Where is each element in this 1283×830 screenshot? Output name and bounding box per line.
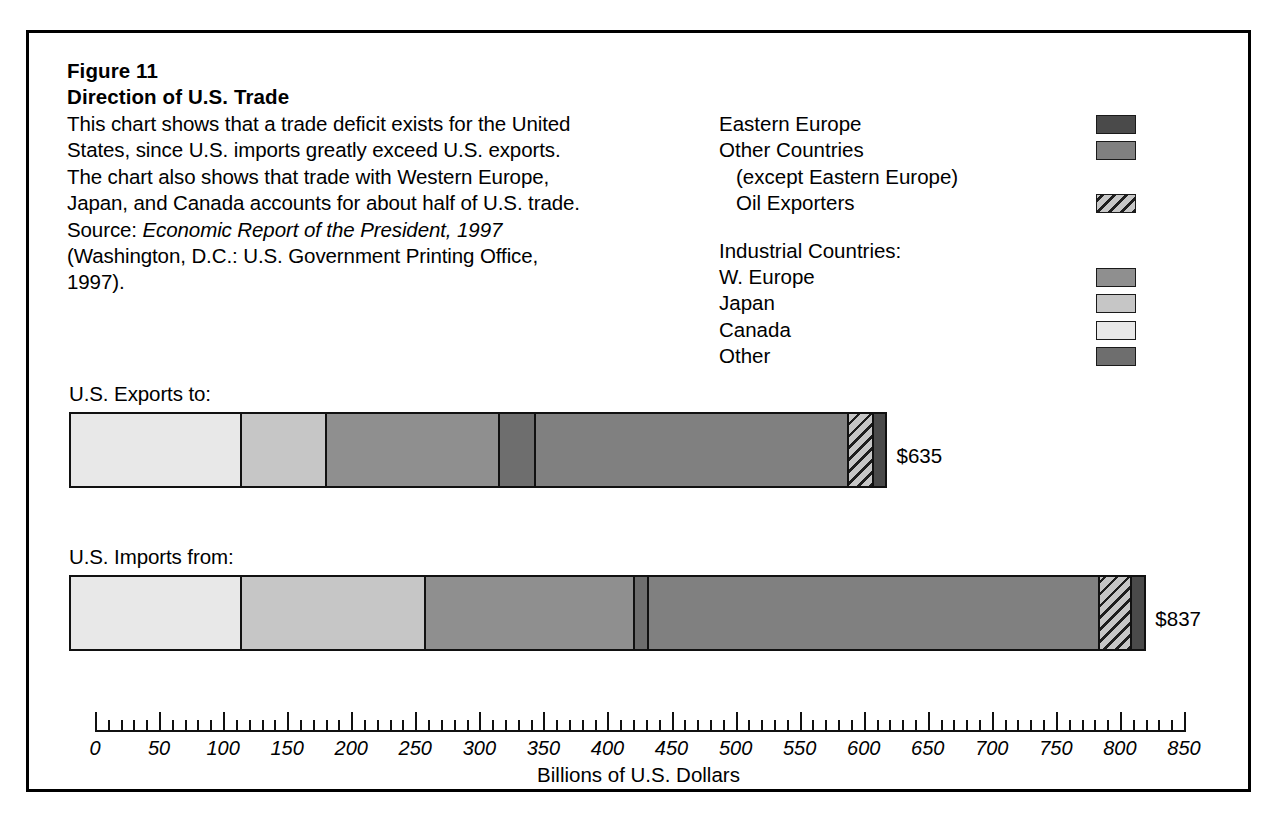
axis-tick-label: 450 bbox=[655, 737, 688, 760]
axis-tick-minor bbox=[1094, 720, 1096, 732]
axis-tick-minor bbox=[1069, 720, 1071, 732]
bar-label-exports: U.S. Exports to: bbox=[69, 383, 211, 405]
axis-tick-minor bbox=[748, 720, 750, 732]
axis-tick-label: 750 bbox=[1039, 737, 1072, 760]
axis-tick-label: 350 bbox=[527, 737, 560, 760]
axis-tick-minor bbox=[185, 720, 187, 732]
axis-tick-minor bbox=[338, 720, 340, 732]
axis-tick-minor bbox=[262, 720, 264, 732]
axis-tick-minor bbox=[377, 720, 379, 732]
bar-segment-japan bbox=[242, 414, 327, 486]
bar-segment-other bbox=[500, 414, 536, 486]
axis-tick-minor bbox=[659, 720, 661, 732]
axis-tick-major bbox=[543, 712, 545, 732]
axis-tick-minor bbox=[941, 720, 943, 732]
axis-tick-minor bbox=[684, 720, 686, 732]
axis-tick-major bbox=[864, 712, 866, 732]
axis-tick-label: 0 bbox=[89, 737, 100, 760]
axis-tick-minor bbox=[966, 720, 968, 732]
axis-tick-minor bbox=[326, 720, 328, 732]
axis-tick-minor bbox=[1043, 720, 1045, 732]
axis-tick-minor bbox=[889, 720, 891, 732]
axis-tick-major bbox=[1120, 712, 1122, 732]
axis-tick-minor bbox=[1005, 720, 1007, 732]
bar-segment-japan bbox=[242, 577, 427, 649]
axis-tick-minor bbox=[467, 720, 469, 732]
axis-tick-minor bbox=[902, 720, 904, 732]
axis-tick-major bbox=[351, 712, 353, 732]
axis-tick-minor bbox=[697, 720, 699, 732]
axis-tick-major bbox=[672, 712, 674, 732]
bar-imports bbox=[69, 575, 1146, 651]
axis-tick-minor bbox=[441, 720, 443, 732]
axis-tick-minor bbox=[1107, 720, 1109, 732]
bar-segment-oil-exporters bbox=[1100, 577, 1132, 649]
axis-tick-minor bbox=[582, 720, 584, 732]
axis-tick-label: 150 bbox=[270, 737, 303, 760]
axis-tick-label: 800 bbox=[1103, 737, 1136, 760]
axis-tick-label: 500 bbox=[719, 737, 752, 760]
axis-tick-minor bbox=[133, 720, 135, 732]
axis-tick-minor bbox=[492, 720, 494, 732]
bar-segment-other-countries bbox=[536, 414, 849, 486]
axis-tick-minor bbox=[723, 720, 725, 732]
axis-tick-minor bbox=[710, 720, 712, 732]
bar-exports bbox=[69, 412, 887, 488]
axis-tick-minor bbox=[428, 720, 430, 732]
figure-frame: Figure 11 Direction of U.S. Trade This c… bbox=[26, 30, 1251, 792]
axis-tick-major bbox=[607, 712, 609, 732]
bar-label-imports: U.S. Imports from: bbox=[69, 546, 234, 568]
axis-tick-label: 250 bbox=[399, 737, 432, 760]
axis-tick-minor bbox=[505, 720, 507, 732]
axis-tick-minor bbox=[1133, 720, 1135, 732]
bar-total-exports: $635 bbox=[897, 445, 943, 467]
axis-tick-minor bbox=[274, 720, 276, 732]
axis-tick-minor bbox=[761, 720, 763, 732]
axis-tick-minor bbox=[313, 720, 315, 732]
axis-tick-minor bbox=[812, 720, 814, 732]
axis-tick-label: 400 bbox=[591, 737, 624, 760]
axis-tick-minor bbox=[953, 720, 955, 732]
axis-tick-label: 300 bbox=[463, 737, 496, 760]
axis-tick-minor bbox=[851, 720, 853, 732]
axis-tick-label: 200 bbox=[335, 737, 368, 760]
axis-tick-minor bbox=[402, 720, 404, 732]
axis-tick-major bbox=[95, 712, 97, 732]
axis-tick-major bbox=[415, 712, 417, 732]
axis-line bbox=[95, 730, 1184, 732]
axis-tick-minor bbox=[825, 720, 827, 732]
axis-tick-minor bbox=[531, 720, 533, 732]
bar-segment-other-countries bbox=[649, 577, 1101, 649]
axis-tick-major bbox=[479, 712, 481, 732]
axis-tick-minor bbox=[620, 720, 622, 732]
axis-tick-minor bbox=[364, 720, 366, 732]
axis-tick-minor bbox=[454, 720, 456, 732]
axis-tick-minor bbox=[197, 720, 199, 732]
axis-tick-minor bbox=[787, 720, 789, 732]
axis-tick-label: 100 bbox=[206, 737, 239, 760]
axis-tick-minor bbox=[1030, 720, 1032, 732]
axis-tick-minor bbox=[1082, 720, 1084, 732]
axis-tick-minor bbox=[838, 720, 840, 732]
axis-tick-minor bbox=[979, 720, 981, 732]
axis-tick-minor bbox=[877, 720, 879, 732]
bar-segment-eastern-europe bbox=[1132, 577, 1143, 649]
axis-tick-minor bbox=[595, 720, 597, 732]
axis-tick-minor bbox=[1146, 720, 1148, 732]
bar-segment-eastern-europe bbox=[874, 414, 885, 486]
axis-tick-minor bbox=[556, 720, 558, 732]
axis-tick-major bbox=[287, 712, 289, 732]
axis-tick-major bbox=[928, 712, 930, 732]
x-axis-title: Billions of U.S. Dollars bbox=[29, 763, 1248, 787]
chart-plot-area: U.S. Exports to: $635 U.S. Imports from:… bbox=[29, 33, 1248, 789]
bar-segment-w-europe bbox=[426, 577, 635, 649]
axis-tick-major bbox=[1184, 712, 1186, 732]
axis-tick-minor bbox=[249, 720, 251, 732]
axis-tick-minor bbox=[915, 720, 917, 732]
axis-tick-label: 550 bbox=[783, 737, 816, 760]
axis-tick-major bbox=[1056, 712, 1058, 732]
axis-tick-label: 50 bbox=[148, 737, 170, 760]
axis-tick-minor bbox=[646, 720, 648, 732]
axis-tick-minor bbox=[236, 720, 238, 732]
axis-tick-minor bbox=[518, 720, 520, 732]
